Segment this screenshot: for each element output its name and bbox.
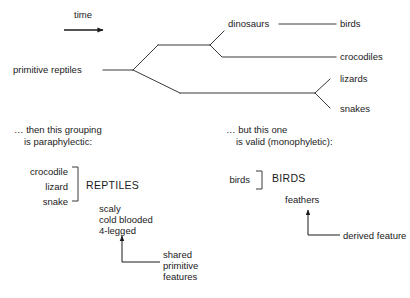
cladogram-figure: time primitive reptiles dinosaurs birds … — [0, 0, 410, 298]
branch-crocodiles — [210, 45, 336, 57]
left-member-crocodile: crocodile — [0, 166, 68, 177]
branch-root-upper — [133, 45, 158, 70]
left-heading-line2: is paraphylectic: — [24, 136, 92, 148]
left-callout-line1: shared — [163, 249, 192, 260]
time-label: time — [74, 9, 92, 20]
shared-features-arrow — [122, 236, 160, 262]
right-member-birds: birds — [186, 174, 250, 185]
right-group-name: BIRDS — [272, 173, 306, 184]
left-group-name: REPTILES — [86, 180, 139, 191]
left-member-lizard: lizard — [0, 181, 68, 192]
left-member-snake: snake — [0, 196, 68, 207]
branch-dinosaur — [210, 31, 224, 45]
left-trait-4-legged: 4-legged — [99, 225, 136, 236]
branch-root-lower — [133, 70, 180, 93]
derived-feature-arrow — [308, 210, 340, 235]
right-heading-line1: … but this one — [226, 124, 287, 136]
branch-lizards — [315, 79, 330, 93]
tree-lines — [0, 0, 410, 298]
left-heading-line1: … then this grouping — [14, 124, 102, 136]
tip-label-snakes: snakes — [340, 103, 370, 114]
left-trait-scaly: scaly — [99, 203, 121, 214]
right-heading-line2: is valid (monophyletic): — [236, 136, 333, 148]
right-trait-feathers: feathers — [285, 194, 319, 205]
left-trait-cold-blooded: cold blooded — [99, 214, 153, 225]
reptiles-bracket — [72, 167, 78, 201]
right-callout-derived-feature: derived feature — [343, 230, 406, 241]
branch-snakes — [315, 93, 330, 108]
tip-label-crocodiles: crocodiles — [340, 51, 383, 62]
birds-bracket — [256, 171, 262, 189]
left-callout-line2: primitive — [163, 260, 198, 271]
tip-label-birds: birds — [340, 18, 361, 29]
tip-label-primitive-reptiles: primitive reptiles — [13, 64, 82, 75]
left-callout-line3: features — [163, 271, 197, 282]
node-label-dinosaurs: dinosaurs — [228, 18, 269, 29]
tip-label-lizards: lizards — [340, 73, 367, 84]
